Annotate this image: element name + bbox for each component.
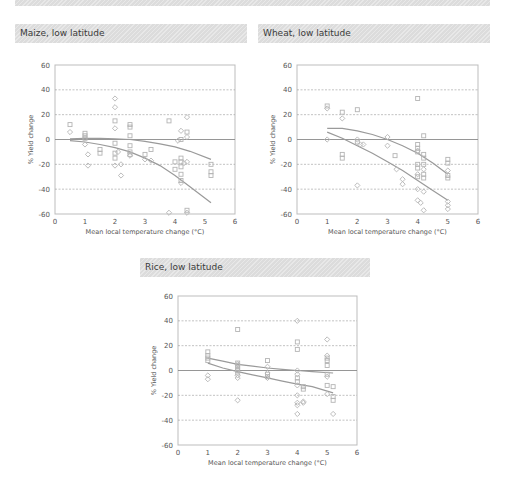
y-tick-label: -40 [162, 417, 173, 425]
x-tick-label: 2 [355, 218, 359, 226]
x-axis-label: Mean local temperature change (°C) [208, 459, 327, 467]
data-point-square [113, 141, 117, 145]
data-point-diamond [112, 96, 117, 101]
data-point-square [113, 156, 117, 160]
data-point-diamond [421, 167, 426, 172]
data-point-diamond [385, 143, 390, 148]
data-point-square [325, 383, 329, 387]
data-point-diamond [445, 203, 450, 208]
data-point-diamond [67, 129, 72, 134]
y-axis-label: % Yield change [27, 115, 35, 165]
data-point-diamond [355, 183, 360, 188]
data-point-diamond [166, 210, 171, 215]
data-point-square [331, 385, 335, 389]
data-point-square [113, 119, 117, 123]
x-tick-label: 0 [295, 218, 299, 226]
y-tick-label: 40 [41, 86, 50, 94]
x-tick-label: 1 [83, 218, 87, 226]
data-point-diamond [331, 411, 336, 416]
x-tick-label: 6 [233, 218, 238, 226]
y-tick-label: 0 [288, 136, 292, 144]
data-point-square [416, 97, 420, 101]
data-point-square [446, 176, 450, 180]
data-point-square [83, 134, 87, 138]
y-tick-label: 40 [283, 86, 292, 94]
chart-maize: 6040200-20-40-600123456Mean local temper… [27, 62, 238, 237]
chart-rice: 6040200-20-40-600123456Mean local temper… [150, 293, 360, 468]
data-point-diamond [340, 116, 345, 121]
x-tick-label: 4 [295, 449, 300, 457]
data-point-diamond [415, 198, 420, 203]
data-point-square [149, 147, 153, 151]
data-point-diamond [184, 115, 189, 120]
y-tick-label: 20 [283, 111, 292, 119]
data-point-diamond [295, 411, 300, 416]
data-point-square [206, 359, 210, 363]
x-tick-label: 5 [325, 449, 329, 457]
x-tick-label: 5 [446, 218, 450, 226]
data-point-diamond [418, 200, 423, 205]
y-tick-label: -20 [162, 392, 173, 400]
data-point-diamond [112, 105, 117, 110]
y-tick-label: -20 [281, 161, 292, 169]
data-point-diamond [445, 206, 450, 211]
data-point-square [179, 172, 183, 176]
data-point-square [185, 130, 189, 134]
data-point-square [128, 123, 132, 127]
y-axis-label: % Yield change [150, 346, 158, 396]
data-point-diamond [325, 337, 330, 342]
data-point-square [173, 160, 177, 164]
data-point-square [173, 167, 177, 171]
fit-line [327, 132, 448, 200]
data-point-square [393, 154, 397, 158]
data-point-diamond [235, 398, 240, 403]
data-point-diamond [184, 134, 189, 139]
x-tick-label: 5 [203, 218, 207, 226]
data-point-square [301, 387, 305, 391]
x-tick-label: 3 [385, 218, 389, 226]
x-tick-label: 2 [235, 449, 239, 457]
y-tick-label: 60 [41, 62, 50, 70]
data-point-square [68, 123, 72, 127]
y-tick-label: 60 [283, 62, 292, 70]
data-point-square [340, 110, 344, 114]
y-tick-label: -60 [162, 442, 173, 450]
data-point-diamond [421, 208, 426, 213]
data-point-diamond [175, 138, 180, 143]
y-tick-label: -60 [281, 211, 292, 219]
x-tick-label: 1 [325, 218, 329, 226]
data-point-square [355, 108, 359, 112]
data-point-diamond [205, 373, 210, 378]
x-tick-label: 3 [143, 218, 147, 226]
data-point-diamond [118, 173, 123, 178]
x-tick-label: 0 [53, 218, 57, 226]
y-tick-label: 60 [164, 293, 173, 301]
x-tick-label: 3 [265, 449, 269, 457]
chart-wheat: 6040200-20-40-600123456Mean local temper… [269, 62, 481, 237]
data-point-diamond [115, 149, 120, 154]
data-point-square [295, 340, 299, 344]
x-tick-label: 4 [415, 218, 420, 226]
x-tick-label: 1 [206, 449, 210, 457]
data-point-square [325, 359, 329, 363]
data-point-diamond [205, 377, 210, 382]
data-point-diamond [85, 152, 90, 157]
y-tick-label: 20 [41, 111, 50, 119]
data-point-square [128, 125, 132, 129]
x-axis-label: Mean local temperature change (°C) [328, 228, 447, 236]
y-tick-label: 20 [164, 342, 173, 350]
data-point-square [143, 152, 147, 156]
data-point-diamond [112, 126, 117, 131]
data-point-square [167, 119, 171, 123]
y-tick-label: 0 [46, 136, 50, 144]
fit-line [70, 141, 211, 203]
data-point-square [295, 347, 299, 351]
data-point-square [128, 144, 132, 148]
fit-line [327, 128, 448, 174]
y-tick-label: -20 [39, 161, 50, 169]
data-point-square [236, 328, 240, 332]
x-tick-label: 6 [476, 218, 481, 226]
x-tick-label: 2 [113, 218, 117, 226]
x-tick-label: 4 [173, 218, 178, 226]
data-point-square [266, 359, 270, 363]
